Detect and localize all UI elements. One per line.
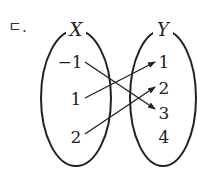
y-element-2: 2: [159, 78, 170, 98]
set-x-name: X: [68, 19, 84, 40]
x-element-2: 2: [71, 127, 82, 147]
arrow-1-to-1: [85, 62, 155, 98]
y-element-4: 4: [159, 127, 170, 147]
arrow-2-to-2: [85, 87, 155, 134]
mapping-diagram: ㄷ. X Y −1 1 2 1 2 3 4: [0, 0, 197, 171]
arrow-neg1-to-3: [85, 62, 155, 109]
x-element-1: 1: [71, 89, 82, 109]
y-element-3: 3: [159, 103, 170, 123]
problem-label: ㄷ.: [8, 18, 27, 36]
x-element-neg1: −1: [57, 52, 82, 72]
diagram-svg: ㄷ. X Y −1 1 2 1 2 3 4: [0, 0, 197, 171]
y-element-1: 1: [159, 52, 170, 72]
